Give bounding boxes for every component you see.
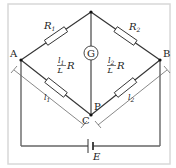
label-p: P xyxy=(94,101,101,112)
label-a: A xyxy=(9,48,18,59)
top-node-dot xyxy=(89,10,92,13)
label-battery-e: E xyxy=(92,151,101,162)
svg-text:L: L xyxy=(107,66,113,75)
circuit-diagram: A B C P G R1 R2 l1 L R l2 L R l1 l2 E xyxy=(0,0,176,168)
svg-text:R: R xyxy=(66,60,75,71)
label-c: C xyxy=(82,115,90,126)
label-b: B xyxy=(163,48,170,59)
node-b-dot xyxy=(158,58,161,61)
label-g: G xyxy=(87,48,95,59)
svg-text:L: L xyxy=(57,66,63,75)
node-a-dot xyxy=(19,58,22,61)
node-c-dot xyxy=(89,113,92,116)
svg-text:R: R xyxy=(116,60,125,71)
